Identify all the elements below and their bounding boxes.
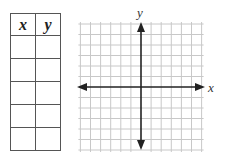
x-axis-right-arrow-icon xyxy=(195,83,205,91)
y-axis xyxy=(137,22,145,150)
y-axis-down-arrow-icon xyxy=(137,140,145,150)
x-axis-left-arrow-icon xyxy=(77,83,87,91)
coordinate-plane: x y xyxy=(0,0,227,162)
x-axis-label: x xyxy=(207,80,214,95)
y-axis-label: y xyxy=(135,5,143,20)
